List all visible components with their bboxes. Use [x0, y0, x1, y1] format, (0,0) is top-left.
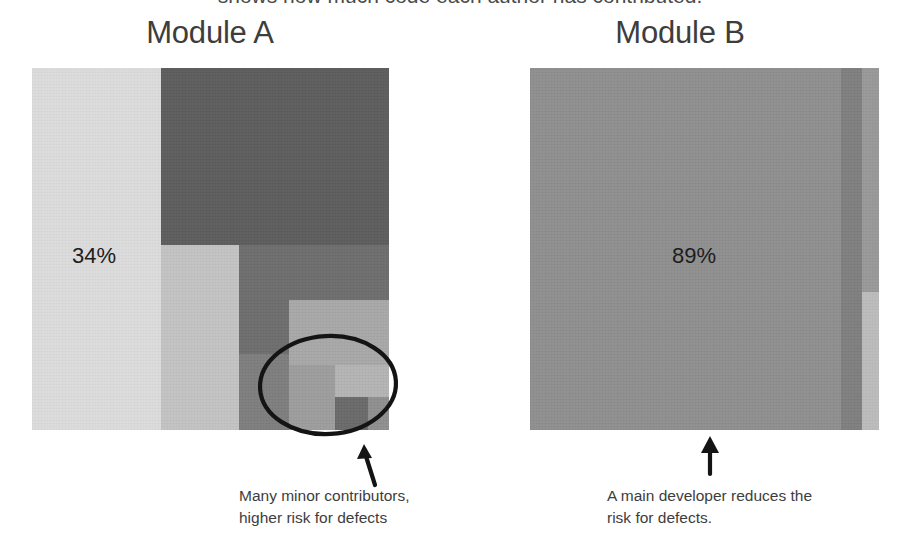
module-b-title: Module B [500, 14, 860, 52]
treemap-cell-a6 [289, 300, 389, 365]
module-a-caption: Many minor contributors, higher risk for… [239, 485, 479, 529]
treemap-cell-b4 [862, 292, 879, 430]
module-a-caption-line-2: higher risk for defects [239, 507, 479, 529]
module-b-caption-line-1: A main developer reduces the [607, 485, 847, 507]
treemap-cell-a10 [368, 397, 389, 430]
module-a-title: Module A [30, 14, 390, 52]
intro-sentence-clip: shows how much code each author has cont… [0, 0, 920, 11]
treemap-cell-a9 [335, 397, 367, 430]
treemap-cell-a3 [161, 245, 240, 430]
treemap-cell-a5 [239, 354, 289, 430]
module-a-up-arrow [357, 444, 375, 485]
module-b-up-arrow [701, 436, 719, 474]
module-b-caption-line-2: risk for defects. [607, 507, 847, 529]
module-a-caption-line-1: Many minor contributors, [239, 485, 479, 507]
module-b-share-label: 89% [672, 243, 716, 269]
treemap-cell-a7 [289, 365, 335, 430]
treemap-cell-b2 [841, 68, 862, 430]
treemap-cell-a2 [161, 68, 389, 245]
treemap-cell-b3 [862, 68, 879, 292]
treemap-cell-a8 [335, 365, 389, 398]
module-b-caption: A main developer reduces the risk for de… [607, 485, 847, 529]
intro-sentence: shows how much code each author has cont… [0, 0, 920, 9]
module-a-share-label: 34% [72, 243, 116, 269]
